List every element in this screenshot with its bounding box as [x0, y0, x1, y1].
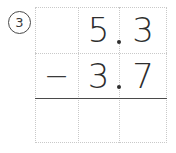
decimal-point-minuend [117, 40, 121, 44]
cell-minuend-tenths: 3 [119, 7, 167, 53]
cell-answer-operator[interactable] [35, 98, 78, 143]
problem-number-label: 3 [15, 16, 23, 29]
cell-answer-ones[interactable] [78, 98, 119, 143]
cell-answer-tenths[interactable] [119, 98, 167, 143]
cell-subtrahend-tenths: 7 [119, 53, 167, 98]
problem-number-badge: 3 [8, 11, 31, 34]
cell-subtrahend-operator: − [35, 53, 78, 98]
vertical-calculation-grid: 5 3 − 3 7 [35, 7, 167, 143]
decimal-point-subtrahend [117, 85, 121, 89]
cell-subtrahend-ones: 3 [78, 53, 119, 98]
cell-minuend-ones: 5 [78, 7, 119, 53]
cell-minuend-operator [35, 7, 78, 53]
worksheet-problem: 3 5 3 − 3 7 [0, 0, 176, 153]
